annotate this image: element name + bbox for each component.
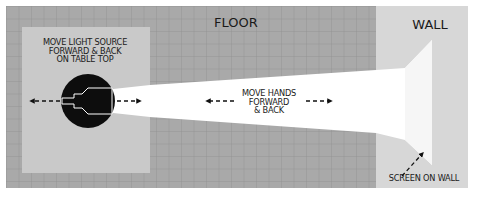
- screen-label: SCREEN ON WALL: [376, 174, 472, 183]
- floor-label: FLOOR: [196, 16, 276, 30]
- hands-instruction: MOVE HANDS FORWARD & BACK: [228, 89, 310, 115]
- light-source-instruction: MOVE LIGHT SOURCE FORWARD & BACK ON TABL…: [25, 38, 145, 64]
- wall-label: WALL: [400, 18, 460, 32]
- light-source-icon: [61, 74, 115, 128]
